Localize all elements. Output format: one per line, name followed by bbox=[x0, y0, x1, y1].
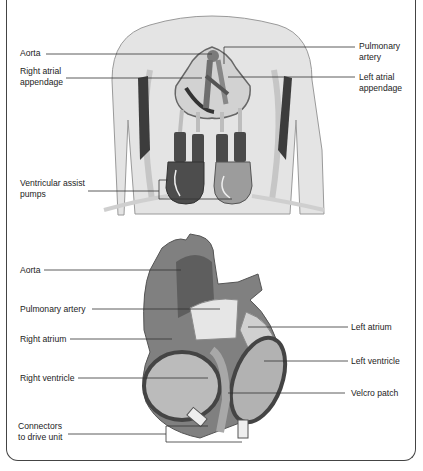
label-right-atrium: Right atrium bbox=[20, 334, 66, 345]
label-pulmonary-artery-bottom: Pulmonary artery bbox=[20, 304, 85, 315]
illustration bbox=[0, 0, 423, 471]
heart-illustration bbox=[143, 234, 296, 438]
label-aorta-top: Aorta bbox=[20, 48, 41, 59]
label-aorta-bottom: Aorta bbox=[20, 265, 41, 276]
label-right-atrial-appendage: Right atrial appendage bbox=[20, 66, 63, 87]
label-ventricular-assist-pumps: Ventricular assist pumps bbox=[20, 178, 85, 199]
label-pulmonary-artery-top: Pulmonary artery bbox=[359, 41, 400, 62]
label-left-ventricle: Left ventricle bbox=[351, 356, 400, 367]
label-connectors-to-drive-unit: Connectors to drive unit bbox=[18, 421, 62, 442]
torso-illustration bbox=[104, 16, 324, 215]
label-left-atrium: Left atrium bbox=[351, 322, 392, 333]
label-left-atrial-appendage: Left atrial appendage bbox=[359, 72, 402, 93]
label-right-ventricle: Right ventricle bbox=[20, 373, 74, 384]
label-velcro-patch: Velcro patch bbox=[351, 388, 398, 399]
